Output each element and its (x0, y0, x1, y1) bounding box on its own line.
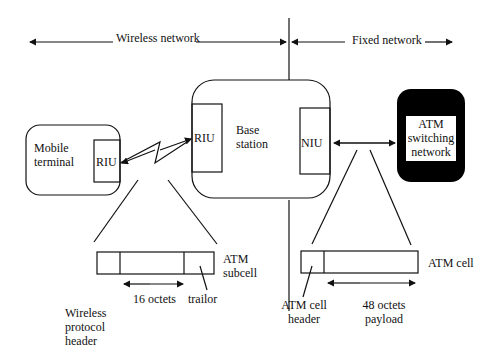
wireless-network-label: Wireless network (116, 31, 200, 45)
atm-cell-payload-label: 48 octets payload (354, 298, 414, 326)
diagram-canvas (0, 0, 500, 356)
atm-switch-label: ATM switching network (406, 117, 456, 159)
atm-cell-box (301, 251, 418, 273)
wireless-header-label: Wireless protocol header (65, 306, 107, 348)
trailer-label: trailor (188, 292, 217, 306)
base-riu-label: RIU (194, 131, 215, 145)
fixed-network-label: Fixed network (352, 33, 422, 47)
atm-cell-label: ATM cell (428, 256, 474, 270)
mobile-riu-label: RIU (96, 155, 117, 169)
atm-cell-header-label: ATM cell header (272, 298, 336, 326)
atm-subcell-box (97, 252, 214, 274)
base-niu-label: NIU (301, 136, 322, 150)
mobile-terminal-label: Mobile terminal (34, 141, 74, 169)
base-station-label: Base station (236, 123, 268, 151)
subcell-size-label: 16 octets (133, 292, 176, 306)
atm-subcell-label: ATM subcell (223, 252, 257, 280)
